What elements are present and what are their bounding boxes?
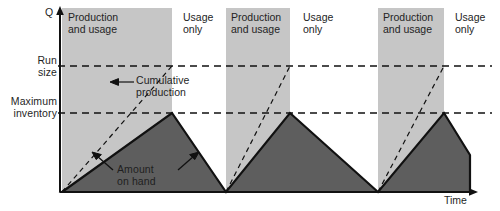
cumulative-production-annotation: Cumulative production: [136, 74, 216, 98]
amount-on-hand-annotation: Amount on hand: [117, 163, 187, 187]
x-axis-arrow-icon: [469, 188, 478, 196]
phase-label-usage-only-2: Usage only: [303, 11, 363, 36]
phase-label-production-and-usage-3: Production and usage: [383, 11, 445, 36]
run-size-label: Run size: [0, 54, 57, 78]
inventory-production-chart: Q Time Run size Maximum inventory Produc…: [0, 0, 500, 211]
phase-label-production-and-usage-1: Production and usage: [68, 11, 168, 36]
x-axis-label: Time: [444, 194, 467, 206]
y-axis-label: Q: [45, 6, 53, 18]
phase-label-production-and-usage-2: Production and usage: [231, 11, 293, 36]
phase-label-usage-only-3: Usage only: [455, 11, 500, 36]
maximum-inventory-label: Maximum inventory: [0, 95, 57, 119]
